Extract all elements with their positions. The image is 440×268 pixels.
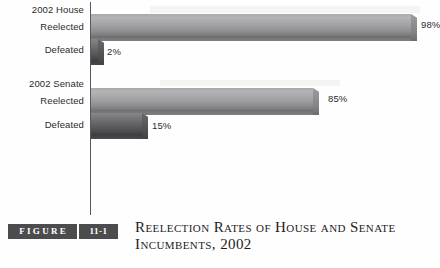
value-label-senate-reelected: 85% [328,93,347,104]
bar-label-house-defeated: Defeated [0,44,84,55]
group-label-house: 2002 House [0,4,84,15]
bar-house-defeated [91,39,98,60]
bar-end-cap [313,88,319,115]
category-axis-labels: 2002 House Reelected Defeated 2002 Senat… [0,0,84,216]
bar-depth-face [91,36,411,41]
scan-artifact [150,6,420,13]
bar-depth-face [91,60,98,65]
value-label-house-reelected: 98% [421,19,440,30]
figure-badge-number: 11-1 [79,224,118,239]
bar-house-reelected [91,14,411,36]
bar-end-cap [142,113,148,139]
chart-plot-area: 2002 House Reelected Defeated 2002 Senat… [0,0,439,216]
figure-title-line-1: Reelection Rates of House and Senate [135,219,435,236]
figure-badge-label: FIGURE [8,224,77,239]
bar-senate-defeated [91,113,142,134]
bar-face [91,88,313,110]
bar-label-senate-reelected: Reelected [0,95,84,106]
group-label-senate: 2002 Senate [0,78,84,89]
figure-caption: FIGURE 11-1 Reelection Rates of House an… [0,219,439,268]
figure-title-line-2: Incumbents, 2002 [135,236,435,253]
bar-face [91,39,98,60]
bar-label-senate-defeated: Defeated [0,119,84,130]
bar-label-house-reelected: Reelected [0,21,84,32]
bar-face [91,113,142,134]
value-label-house-defeated: 2% [107,46,121,57]
bar-end-cap [98,39,104,65]
scan-artifact [160,80,340,86]
figure-title: Reelection Rates of House and Senate Inc… [135,219,435,252]
bar-depth-face [91,134,142,139]
figure-badge-group: FIGURE 11-1 [8,224,118,239]
bar-senate-reelected [91,88,313,110]
bar-face [91,14,411,36]
value-label-senate-defeated: 15% [152,120,171,131]
bar-end-cap [411,14,417,41]
